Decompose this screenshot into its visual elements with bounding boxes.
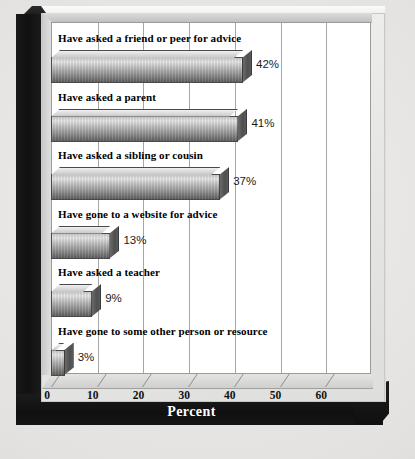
bar-front-face — [51, 233, 110, 259]
bar-top-face — [51, 226, 110, 234]
bar-front-face — [51, 57, 243, 83]
bar-value-label: 13% — [123, 234, 146, 246]
x-axis-tick-label: 50 — [270, 389, 282, 401]
chart-screenshot: 0102030405060 Have asked a friend or pee… — [0, 0, 415, 459]
bar-front-face — [51, 291, 92, 317]
bar-category-label: Have asked a teacher — [58, 266, 160, 278]
bar — [51, 167, 220, 193]
bar-value-label: 3% — [78, 351, 95, 363]
bar-category-label: Have gone to some other person or resour… — [58, 325, 268, 337]
x-axis-tick-label: 0 — [44, 389, 50, 401]
bar-category-label: Have asked a parent — [58, 91, 156, 103]
x-axis-tick-label: 20 — [133, 389, 145, 401]
x-axis-plate — [42, 374, 373, 389]
bar — [51, 50, 243, 76]
bar-category-label: Have asked a sibling or cousin — [58, 149, 203, 161]
gridline — [281, 23, 282, 373]
x-axis-title: Percent — [0, 404, 383, 420]
bar-value-label: 42% — [256, 58, 279, 70]
x-axis-tick-label: 60 — [316, 389, 328, 401]
bar-top-face — [51, 167, 220, 175]
plot-wrapper: 0102030405060 Have asked a friend or pee… — [51, 22, 373, 375]
bar-value-label: 9% — [105, 292, 122, 304]
bar-front-face — [51, 350, 65, 376]
bar — [51, 109, 238, 135]
bar-top-face — [51, 50, 243, 58]
bar — [51, 284, 92, 310]
bar-category-label: Have gone to a website for advice — [58, 208, 218, 220]
bar — [51, 226, 110, 252]
bar-top-face — [51, 109, 238, 117]
x-axis-tick-label: 10 — [87, 389, 99, 401]
bar-value-label: 37% — [233, 175, 256, 187]
x-axis-tick-label: 30 — [178, 389, 190, 401]
bar-value-label: 41% — [251, 117, 274, 129]
bar-front-face — [51, 116, 238, 142]
bar — [51, 343, 65, 369]
bar-front-face — [51, 174, 220, 200]
gridline — [326, 23, 327, 373]
frame-left-slab — [16, 14, 43, 425]
bar-category-label: Have asked a friend or peer for advice — [58, 32, 241, 44]
x-axis-tick-label: 40 — [224, 389, 236, 401]
